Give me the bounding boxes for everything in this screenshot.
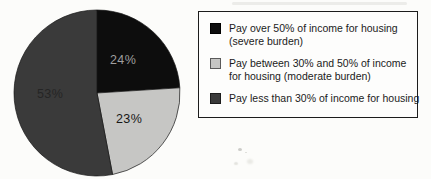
legend-swatch-severe <box>210 23 221 34</box>
scan-streak <box>232 2 407 5</box>
legend-item-severe: Pay over 50% of income for housing (seve… <box>210 22 413 48</box>
pie-chart: 24% 23% 53% <box>0 0 200 179</box>
legend-item-moderate: Pay between 30% and 50% of income for ho… <box>210 57 413 83</box>
slice-label-severe: 24% <box>110 53 136 67</box>
legend-box: Pay over 50% of income for housing (seve… <box>198 11 418 118</box>
legend-line: (severe burden) <box>229 35 398 48</box>
legend-line: Pay between 30% and 50% of income <box>229 57 406 70</box>
pie-svg <box>7 3 187 179</box>
legend-swatch-less <box>210 93 221 104</box>
slice-label-moderate: 23% <box>116 112 142 126</box>
housing-cost-pie-figure: 24% 23% 53% Pay over 50% of income for h… <box>0 0 431 179</box>
legend-line: Pay over 50% of income for housing <box>229 22 398 35</box>
slice-label-less: 53% <box>37 87 63 101</box>
legend-swatch-moderate <box>210 58 221 69</box>
legend-item-label: Pay between 30% and 50% of income for ho… <box>229 57 406 83</box>
pie-slice-0 <box>97 10 180 93</box>
legend-line: Pay less than 30% of income for housing <box>229 92 419 105</box>
legend-line: for housing (moderate burden) <box>229 70 406 83</box>
legend-item-less: Pay less than 30% of income for housing <box>210 92 413 105</box>
legend-item-label: Pay over 50% of income for housing (seve… <box>229 22 398 48</box>
legend-item-label: Pay less than 30% of income for housing <box>229 92 419 105</box>
scan-smudge <box>238 148 242 151</box>
